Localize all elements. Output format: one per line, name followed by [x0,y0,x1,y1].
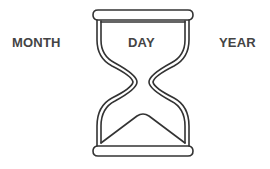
year-label: YEAR [219,35,256,50]
hourglass-diagram: MONTH DAY YEAR [0,0,270,169]
hourglass-sand-pile [101,114,185,143]
hourglass-top-cap [93,10,193,20]
day-label: DAY [128,35,155,50]
month-label: MONTH [12,35,61,50]
hourglass-bottom-cap [93,146,193,156]
hourglass-icon [0,0,270,169]
